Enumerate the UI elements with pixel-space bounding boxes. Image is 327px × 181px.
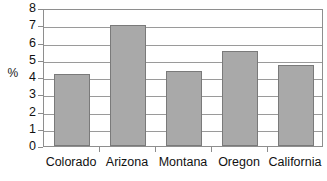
y-axis-tick-label: 7 bbox=[18, 19, 36, 32]
bar bbox=[222, 51, 258, 146]
x-axis-label: Colorado bbox=[46, 155, 97, 170]
x-axis-labels: ColoradoArizonaMontanaOregonCalifornia bbox=[43, 155, 323, 177]
y-axis-tick-mark bbox=[38, 78, 43, 79]
y-axis-tick-mark bbox=[38, 113, 43, 114]
y-axis-tick-mark bbox=[38, 61, 43, 62]
bars-layer bbox=[44, 10, 322, 146]
bar-slot bbox=[268, 10, 324, 146]
y-axis-tick-mark bbox=[38, 26, 43, 27]
x-axis-tick-mark bbox=[211, 147, 212, 152]
y-axis-title: % bbox=[2, 66, 18, 80]
y-axis-tick-label: 8 bbox=[18, 2, 36, 15]
y-axis-tick-label: 2 bbox=[18, 106, 36, 119]
y-axis-tick-label: 4 bbox=[18, 71, 36, 84]
bar bbox=[278, 65, 314, 146]
x-axis-tick-mark bbox=[155, 147, 156, 152]
plot-area bbox=[43, 9, 323, 147]
y-axis-tick-mark bbox=[38, 130, 43, 131]
bar-slot bbox=[100, 10, 156, 146]
x-axis-tick-mark bbox=[99, 147, 100, 152]
bar bbox=[166, 71, 202, 146]
y-axis-tick-labels: 876543210 bbox=[18, 0, 38, 181]
y-axis-tick-label: 3 bbox=[18, 88, 36, 101]
bar bbox=[54, 74, 90, 146]
y-axis-tick-label: 6 bbox=[18, 37, 36, 50]
x-axis-label: California bbox=[269, 155, 322, 170]
bar-slot bbox=[156, 10, 212, 146]
x-axis-label: Montana bbox=[159, 155, 208, 170]
x-axis-tick-mark bbox=[267, 147, 268, 152]
y-axis-tick-label: 5 bbox=[18, 54, 36, 67]
bar bbox=[110, 25, 146, 146]
y-axis-tick-label: 1 bbox=[18, 123, 36, 136]
y-axis-tick-label: 0 bbox=[18, 140, 36, 153]
y-axis-tick-mark bbox=[38, 147, 43, 148]
y-axis-tick-mark bbox=[38, 44, 43, 45]
bar-chart: % 876543210 ColoradoArizonaMontanaOregon… bbox=[0, 0, 327, 181]
x-axis-label: Arizona bbox=[106, 155, 148, 170]
bar-slot bbox=[44, 10, 100, 146]
bar-slot bbox=[212, 10, 268, 146]
x-axis-label: Oregon bbox=[218, 155, 260, 170]
y-axis-tick-mark bbox=[38, 9, 43, 10]
y-axis-tick-mark bbox=[38, 95, 43, 96]
x-axis-tick-marks bbox=[43, 147, 323, 153]
